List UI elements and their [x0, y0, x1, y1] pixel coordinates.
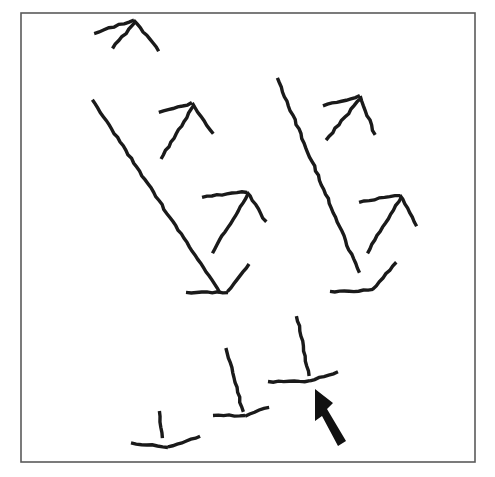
arrow-head-top-left-right-arm	[134, 20, 159, 51]
stem-foot-bottom-left	[131, 411, 200, 448]
stem-foot-bottom-right-target-vertical-stem	[296, 316, 309, 376]
v-foot-right	[330, 262, 396, 292]
arrow-head-middle-upper-left-right-arm	[192, 103, 213, 134]
figure-root	[0, 0, 495, 477]
arrow-head-middle-lower-left-left-arm	[202, 192, 247, 198]
v-foot-right-rising-arm	[372, 262, 396, 289]
stem-foot-bottom-middle-vertical-stem	[226, 348, 243, 412]
stem-foot-bottom-left-base-right-rising	[168, 436, 200, 447]
stem-foot-bottom-middle-base-right-rising	[245, 407, 269, 416]
arrow-head-middle-lower-right-inner-stem	[368, 197, 402, 253]
long-diagonal-right-diagonal-line	[277, 78, 359, 273]
stem-foot-bottom-left-vertical-stem	[159, 411, 162, 438]
v-foot-right-base-horizontal	[330, 289, 373, 292]
stem-foot-bottom-right-target-base-right-rising	[310, 372, 338, 381]
v-foot-left-rising-arm	[227, 264, 249, 292]
arrow-head-middle-upper-right-right-arm	[360, 96, 375, 135]
shapes-layer	[92, 20, 416, 447]
stem-foot-bottom-middle	[213, 348, 269, 416]
stem-foot-bottom-left-base-left	[131, 443, 168, 448]
arrow-head-middle-lower-left-inner-stem	[212, 194, 247, 253]
stimulus-canvas	[0, 0, 495, 477]
arrow-head-middle-lower-right-left-arm	[359, 196, 400, 203]
arrow-head-top-left	[94, 20, 158, 51]
stem-foot-bottom-right-target	[268, 316, 338, 382]
arrow-head-middle-lower-left	[202, 192, 266, 253]
arrow-head-middle-upper-right	[323, 96, 375, 141]
arrow-head-middle-lower-right	[359, 195, 417, 253]
long-diagonal-left-diagonal-line	[92, 100, 220, 293]
mouse-cursor-arrow[interactable]	[315, 389, 346, 446]
stimulus-border	[21, 13, 475, 462]
stem-foot-bottom-right-target-base-left	[268, 381, 310, 383]
arrow-head-middle-upper-left	[159, 103, 213, 159]
arrow-head-middle-upper-left-inner-stem	[161, 105, 194, 159]
long-diagonal-right	[277, 78, 359, 273]
arrow-head-middle-lower-right-right-arm	[400, 195, 417, 226]
arrow-head-middle-lower-left-right-arm	[247, 192, 267, 222]
long-diagonal-left	[92, 100, 220, 293]
v-foot-left-base-horizontal	[186, 292, 228, 293]
arrow-head-middle-upper-left-left-arm	[159, 103, 192, 113]
stem-foot-bottom-middle-base-left	[213, 415, 245, 416]
